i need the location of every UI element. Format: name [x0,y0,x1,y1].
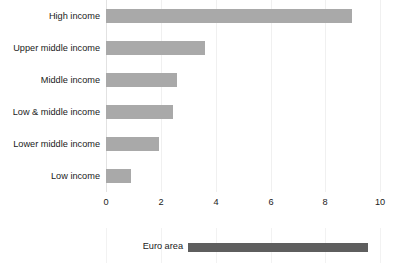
x-tick-label-8: 8 [310,196,340,209]
x-tick-label-4: 4 [201,196,231,209]
bar-row: Middle income [0,73,397,87]
chart-plot-area: High income Upper middle income Middle i… [0,0,397,200]
bar-row: Lower middle income [0,137,397,151]
x-tick-label-0: 0 [91,196,121,209]
x-axis: 0 2 4 6 8 10 [0,196,397,212]
gridline-4 [216,0,217,192]
gridline-6 [271,0,272,192]
category-label-lower-middle-income: Lower middle income [0,138,100,150]
euro-area-label: Euro area [0,240,183,252]
gridline-2 [161,0,162,192]
category-label-high-income: High income [0,10,100,22]
bar-row: Low & middle income [0,105,397,119]
category-label-low-and-middle-income: Low & middle income [0,106,100,118]
bar-high-income[interactable] [106,9,352,23]
gridline-0 [106,0,107,192]
category-label-low-income: Low income [0,170,100,182]
bar-chart-figure: High income Upper middle income Middle i… [0,0,397,263]
bar-row: Upper middle income [0,41,397,55]
euro-area-panel: Euro area [0,228,397,263]
bar-low-income[interactable] [106,169,131,183]
x-tick-label-2: 2 [146,196,176,209]
bar-row: High income [0,9,397,23]
x-tick-label-10: 10 [365,196,395,209]
category-label-upper-middle-income: Upper middle income [0,42,100,54]
gridline-10 [380,0,381,192]
bar-middle-income[interactable] [106,73,177,87]
bar-upper-middle-income[interactable] [106,41,205,55]
bar-euro-area[interactable] [188,243,368,252]
euro-gridline-10 [380,228,381,263]
bar-lower-middle-income[interactable] [106,137,159,151]
x-tick-label-6: 6 [256,196,286,209]
bar-row: Low income [0,169,397,183]
bar-low-and-middle-income[interactable] [106,105,173,119]
category-label-middle-income: Middle income [0,74,100,86]
gridline-8 [325,0,326,192]
